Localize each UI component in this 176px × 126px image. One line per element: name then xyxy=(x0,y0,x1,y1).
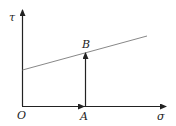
y-axis-label: τ xyxy=(9,11,16,24)
origin-label: O xyxy=(17,109,26,122)
point-b-label: B xyxy=(81,38,90,51)
diagram-canvas: τ B O A σ xyxy=(0,0,176,126)
diagram-svg: τ B O A σ xyxy=(0,0,176,126)
x-axis-label: σ xyxy=(157,110,165,123)
point-a-label: A xyxy=(79,110,88,123)
